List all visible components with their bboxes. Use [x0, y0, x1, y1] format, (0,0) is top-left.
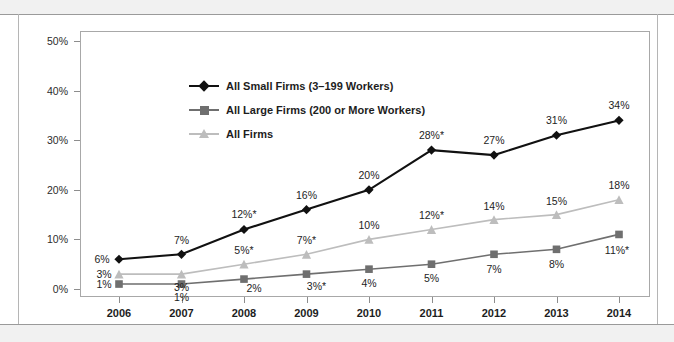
x-axis-tick-mark: [369, 296, 370, 303]
chart-point-label: 18%: [608, 179, 629, 191]
y-axis-tick-label: 40%: [28, 85, 68, 97]
chart-point-label: 12%*: [419, 209, 444, 221]
chart-point-label: 10%: [358, 219, 379, 231]
x-axis-tick-mark: [244, 296, 245, 303]
legend-item-all-firms[interactable]: All Firms: [189, 122, 489, 146]
page-rule-left: [18, 14, 19, 324]
chart-point-label: 8%: [549, 258, 564, 270]
chart-data-point: [239, 225, 248, 234]
chart-data-point: [302, 205, 311, 214]
chart-data-point: [114, 255, 123, 264]
chart-point-label: 16%: [296, 189, 317, 201]
y-axis-tick-label: 30%: [28, 134, 68, 146]
chart-data-point: [365, 265, 373, 273]
chart-legend: All Small Firms (3–199 Workers) All Larg…: [189, 74, 489, 146]
legend-label: All Large Firms (200 or More Workers): [226, 104, 425, 116]
x-axis-tick-mark: [307, 296, 308, 303]
chart-point-label: 3%: [174, 281, 189, 293]
chart-point-label: 34%: [608, 99, 629, 111]
chart-data-point: [303, 270, 311, 278]
chart-data-point: [552, 131, 561, 140]
y-axis-tick-label: 50%: [28, 35, 68, 47]
page-band-top: [0, 0, 674, 15]
x-axis-tick-mark: [432, 296, 433, 303]
chart-point-label: 15%: [546, 195, 567, 207]
x-axis-tick-mark: [557, 296, 558, 303]
page-rule-right: [657, 14, 658, 324]
chart-data-point: [553, 246, 561, 254]
x-axis-tick-label: 2012: [464, 307, 524, 319]
chart-data-point: [428, 260, 436, 268]
chart-point-label: 3%: [96, 268, 111, 280]
chart-point-label: 6%: [94, 253, 109, 265]
chart-point-label: 31%: [546, 114, 567, 126]
chart-data-point: [490, 250, 498, 258]
chart-point-label: 7%*: [297, 234, 316, 246]
chart-point-label: 4%: [361, 277, 376, 289]
chart-data-point: [615, 231, 623, 239]
x-axis-tick-label: 2008: [214, 307, 274, 319]
legend-label: All Small Firms (3–199 Workers): [226, 80, 393, 92]
x-axis-tick-mark: [119, 296, 120, 303]
chart-point-label: 5%: [424, 272, 439, 284]
x-axis-tick-mark: [494, 296, 495, 303]
chart-data-point: [177, 250, 186, 259]
x-axis-tick-label: 2006: [89, 307, 149, 319]
x-axis-tick-mark: [619, 296, 620, 303]
x-axis-tick-label: 2009: [277, 307, 337, 319]
chart-point-label: 20%: [358, 169, 379, 181]
chart-data-point: [115, 280, 123, 288]
y-axis-tick-label: 10%: [28, 233, 68, 245]
chart-point-label: 7%: [486, 263, 501, 275]
chart-plot-area: 6%7%12%*16%20%28%*27%31%34%1%1%2%3%*4%5%…: [80, 31, 650, 297]
chart-point-label: 3%*: [307, 280, 326, 292]
chart-data-point: [614, 116, 623, 125]
chart-point-label: 7%: [174, 234, 189, 246]
chart-point-label: 12%*: [231, 208, 256, 220]
x-axis-tick-label: 2011: [402, 307, 462, 319]
legend-swatch-triangle-icon: [189, 127, 219, 141]
y-axis-tick-label: 20%: [28, 184, 68, 196]
x-axis-tick-label: 2010: [339, 307, 399, 319]
y-axis-tick-label: 0%: [28, 283, 68, 295]
x-axis-tick-label: 2013: [527, 307, 587, 319]
legend-item-all-small-firms[interactable]: All Small Firms (3–199 Workers): [189, 74, 489, 98]
legend-swatch-square-icon: [189, 103, 219, 117]
chart-point-label: 14%: [483, 200, 504, 212]
chart-point-label: 2%: [246, 282, 261, 294]
x-axis-tick-label: 2007: [152, 307, 212, 319]
x-axis-tick-label: 2014: [589, 307, 649, 319]
legend-label: All Firms: [226, 128, 273, 140]
chart-point-label: 11%*: [605, 244, 629, 256]
chart-series-layer: [81, 32, 649, 296]
legend-swatch-diamond-icon: [189, 79, 219, 93]
chart-point-label: 5%*: [234, 244, 253, 256]
legend-item-all-large-firms[interactable]: All Large Firms (200 or More Workers): [189, 98, 489, 122]
chart-data-point: [489, 150, 498, 159]
page-band-bottom: [0, 324, 674, 342]
